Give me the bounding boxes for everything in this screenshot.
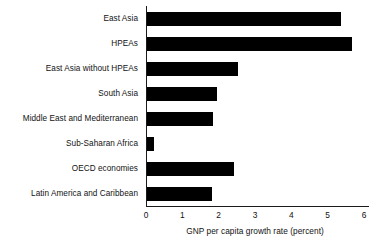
x-axis-title: GNP per capita growth rate (percent) bbox=[146, 226, 364, 236]
bar bbox=[147, 162, 234, 176]
bar bbox=[147, 112, 213, 126]
x-axis-line bbox=[146, 206, 369, 207]
category-label: South Asia bbox=[0, 89, 138, 98]
bar bbox=[147, 137, 154, 151]
bar bbox=[147, 62, 238, 76]
x-tick-label: 4 bbox=[281, 210, 301, 220]
plot-area bbox=[146, 6, 364, 206]
x-tick-label: 3 bbox=[245, 210, 265, 220]
value-axis: 0123456 bbox=[146, 210, 371, 224]
category-label: HPEAs bbox=[0, 39, 138, 48]
category-label: OECD economies bbox=[0, 164, 138, 173]
x-tick-label: 6 bbox=[354, 210, 374, 220]
category-label: Latin America and Caribbean bbox=[0, 189, 138, 198]
category-label: Middle East and Mediterranean bbox=[0, 114, 138, 123]
category-label: East Asia without HPEAs bbox=[0, 64, 138, 73]
category-label: East Asia bbox=[0, 14, 138, 23]
category-label: Sub-Saharan Africa bbox=[0, 139, 138, 148]
bar bbox=[147, 37, 352, 51]
bar-chart: East AsiaHPEAsEast Asia without HPEAsSou… bbox=[0, 0, 379, 248]
x-tick-label: 1 bbox=[172, 210, 192, 220]
bar bbox=[147, 12, 341, 26]
x-tick-label: 0 bbox=[136, 210, 156, 220]
bar bbox=[147, 87, 217, 101]
bar bbox=[147, 187, 212, 201]
category-axis: East AsiaHPEAsEast Asia without HPEAsSou… bbox=[0, 6, 142, 206]
x-tick-label: 2 bbox=[209, 210, 229, 220]
x-tick-label: 5 bbox=[318, 210, 338, 220]
